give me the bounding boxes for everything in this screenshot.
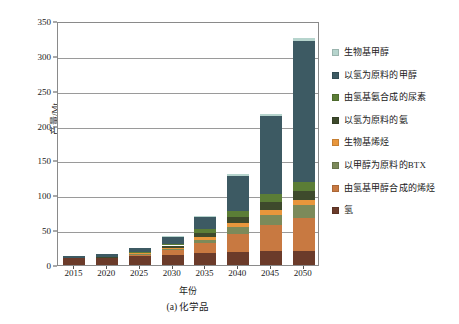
figure-caption: (a) 化学品 [57, 299, 319, 313]
bar-2015[interactable] [63, 256, 85, 265]
bar-segment [227, 227, 249, 233]
bar-segment [227, 176, 249, 211]
bar-segment [227, 217, 249, 223]
bar-2030[interactable] [162, 236, 184, 265]
bar-segment [162, 250, 184, 254]
bar-segment [194, 229, 216, 232]
bar-segment [129, 256, 151, 265]
bar-segment [260, 225, 282, 251]
bar-segment [162, 236, 184, 237]
legend-item-label: 生物基烯烃 [344, 138, 390, 147]
x-axis-tick-label: 2045 [261, 268, 279, 279]
legend-swatch-icon [332, 117, 339, 124]
legend-item-label: 由氢基氨合成的尿素 [344, 93, 426, 102]
bar-segment [63, 258, 85, 265]
plot-area [57, 22, 319, 266]
bar-2045[interactable] [260, 114, 282, 265]
bar-2025[interactable] [129, 248, 151, 265]
legend-item-6[interactable]: 由氢基甲醇合成的烯烃 [332, 184, 459, 193]
x-axis-tick-label: 2040 [228, 268, 246, 279]
x-axis-tick-mark [270, 266, 271, 269]
bar-segment [162, 249, 184, 250]
bar-segment [293, 205, 315, 218]
x-axis-tick-label: 2050 [294, 268, 312, 279]
y-axis-tick-label: 250 [38, 87, 52, 96]
x-axis-tick-label: 2035 [195, 268, 213, 279]
bar-segment [227, 211, 249, 217]
bar-segment [129, 254, 151, 255]
x-axis-tick-mark [204, 266, 205, 269]
legend-item-label: 以氢为原料的甲醇 [344, 71, 417, 80]
bar-2040[interactable] [227, 174, 249, 265]
legend-swatch-icon [332, 139, 339, 146]
bar-segment [293, 200, 315, 205]
bar-segment [293, 38, 315, 40]
y-axis-tick-label: 50 [42, 227, 51, 236]
bar-segment [63, 256, 85, 258]
legend-swatch-icon [332, 207, 339, 214]
legend-item-label: 氢 [344, 206, 353, 215]
bar-segment [96, 254, 118, 257]
bar-segment [227, 252, 249, 265]
chart-figure: 产量/Mt 050100150200250300350 201520202025… [0, 0, 459, 324]
bar-2035[interactable] [194, 216, 216, 265]
bar-segment [129, 252, 151, 253]
legend-item-label: 以氢为原料的氨 [344, 116, 408, 125]
bar-segment [194, 243, 216, 253]
legend-item-5[interactable]: 以甲醇为原料的BTX [332, 161, 459, 170]
bar-segment [293, 191, 315, 200]
bar-segment [260, 215, 282, 225]
bar-segment [260, 114, 282, 116]
bar-segment [227, 223, 249, 227]
bar-segment [194, 233, 216, 237]
y-axis-tick-label: 0 [47, 262, 52, 271]
bar-segment [162, 255, 184, 265]
legend-swatch-icon [332, 185, 339, 192]
legend-swatch-icon [332, 94, 339, 101]
legend-item-1[interactable]: 以氢为原料的甲醇 [332, 71, 459, 80]
y-axis: 050100150200250300350 [0, 22, 57, 266]
bar-segment [260, 194, 282, 202]
bar-2020[interactable] [96, 254, 118, 265]
bar-segment [227, 234, 249, 252]
bar-segment [129, 248, 151, 251]
bar-segment [293, 251, 315, 265]
bar-segment [260, 210, 282, 215]
bar-segment [194, 237, 216, 240]
legend: 生物基甲醇以氢为原料的甲醇由氢基氨合成的尿素以氢为原料的氨生物基烯烃以甲醇为原料… [332, 48, 459, 229]
bar-segment [293, 182, 315, 191]
bar-segment [96, 257, 118, 265]
bar-segment [260, 202, 282, 210]
legend-swatch-icon [332, 49, 339, 56]
x-axis: 20152020202520302035204020452050 [57, 268, 319, 282]
y-axis-tick-label: 100 [38, 192, 52, 201]
bar-segment [194, 240, 216, 243]
bar-segment [162, 244, 184, 245]
x-axis-tick-label: 2020 [97, 268, 115, 279]
legend-item-3[interactable]: 以氢为原料的氨 [332, 116, 459, 125]
x-axis-tick-mark [237, 266, 238, 269]
legend-item-2[interactable]: 由氢基氨合成的尿素 [332, 93, 459, 102]
bar-segment [194, 216, 216, 217]
y-axis-tick-label: 150 [38, 157, 52, 166]
x-axis-tick-mark [106, 266, 107, 269]
bar-segment [162, 236, 184, 244]
legend-item-label: 生物基甲醇 [344, 48, 390, 57]
bar-segment [129, 252, 151, 253]
legend-item-0[interactable]: 生物基甲醇 [332, 48, 459, 57]
bar-segment [162, 248, 184, 249]
y-axis-tick-label: 300 [38, 52, 52, 61]
bar-segment [293, 41, 315, 183]
bar-segment [96, 257, 118, 258]
legend-item-4[interactable]: 生物基烯烃 [332, 138, 459, 147]
bar-segment [293, 218, 315, 251]
x-axis-tick-mark [172, 266, 173, 269]
legend-item-label: 以甲醇为原料的BTX [344, 161, 426, 170]
x-axis-tick-mark [73, 266, 74, 269]
x-axis-tick-label: 2015 [64, 268, 82, 279]
y-axis-tick-label: 200 [38, 122, 52, 131]
x-axis-tick-label: 2025 [130, 268, 148, 279]
legend-item-7[interactable]: 氢 [332, 206, 459, 215]
bar-2050[interactable] [293, 38, 315, 265]
bar-segment [194, 253, 216, 265]
